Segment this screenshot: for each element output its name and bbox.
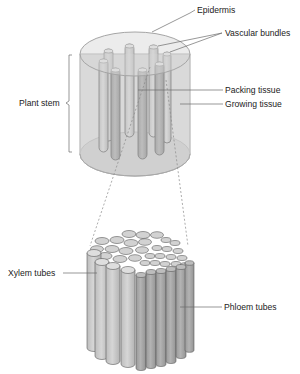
label-plant-stem: Plant stem xyxy=(19,98,60,108)
label-phloem-tubes: Phloem tubes xyxy=(224,302,277,312)
label-xylem-tubes: Xylem tubes xyxy=(8,268,55,278)
label-growing-tissue: Growing tissue xyxy=(225,99,282,109)
plant-stem-diagram xyxy=(0,0,300,374)
label-vascular-bundles: Vascular bundles xyxy=(225,28,290,38)
stem-cylinder xyxy=(80,32,190,176)
vascular-bundle-detail xyxy=(87,231,194,371)
label-epidermis: Epidermis xyxy=(197,5,235,15)
label-packing-tissue: Packing tissue xyxy=(225,85,280,95)
